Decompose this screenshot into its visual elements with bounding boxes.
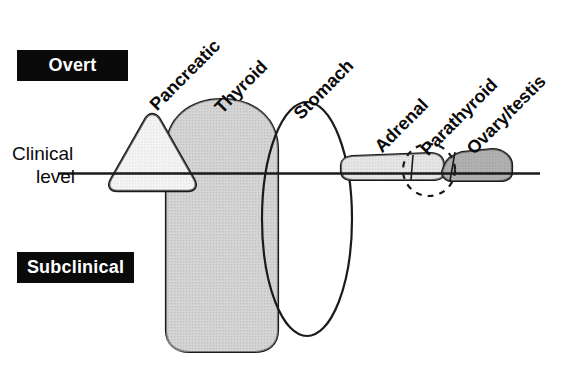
banner-subclinical: Subclinical bbox=[17, 252, 134, 283]
clinical-level-label-line1: Clinical bbox=[12, 142, 73, 165]
banner-overt-label: Overt bbox=[48, 55, 96, 76]
banner-subclinical-label: Subclinical bbox=[27, 257, 124, 278]
clinical-level-label-line2: level bbox=[36, 165, 75, 188]
banner-overt: Overt bbox=[17, 50, 128, 81]
endocrine-iceberg-diagram: Overt Subclinical Clinical level Pancrea… bbox=[0, 0, 562, 384]
